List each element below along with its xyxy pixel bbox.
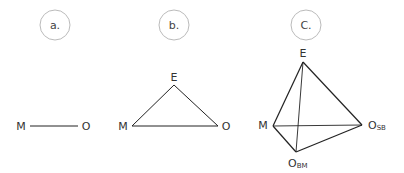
edge-m-obm [273, 126, 296, 152]
diagram-canvas: a. M O b. E M O C. E M OSB OBM [0, 0, 404, 173]
triangle-m-e-o [132, 85, 218, 126]
panel-c: C. E M OSB OBM [258, 10, 386, 170]
panel-c-label: C. [300, 19, 311, 32]
node-osb-label: OSB [368, 119, 386, 132]
node-m-label: M [118, 120, 128, 133]
node-o-label: O [82, 120, 91, 133]
node-e-label: E [171, 71, 178, 84]
panel-b-label: b. [169, 19, 179, 32]
edge-obm-osb [296, 125, 362, 152]
panel-b: b. E M O [118, 10, 230, 133]
edge-e-osb [303, 62, 362, 125]
edge-m-osb [273, 125, 362, 126]
node-e-label: E [300, 47, 307, 60]
panel-a: a. M O [16, 10, 90, 133]
tetrahedron [273, 62, 362, 152]
panel-a-label: a. [50, 19, 60, 32]
node-o-label: O [222, 120, 231, 133]
node-m-label: M [16, 120, 26, 133]
node-m-label: M [258, 119, 268, 132]
node-obm-label: OBM [288, 157, 308, 170]
